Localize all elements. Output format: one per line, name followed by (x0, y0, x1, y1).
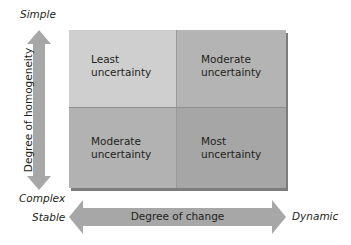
axis-right-label: Dynamic (292, 210, 338, 222)
axis-top-label: Simple (20, 8, 56, 20)
cell-line2: uncertainty (201, 148, 261, 161)
cell-line1: Least (91, 53, 151, 66)
axis-left-label: Stable (32, 211, 65, 223)
cell-line1: Most (201, 135, 261, 148)
cell-moderate-uncertainty-bottom: Moderate uncertainty (69, 107, 176, 188)
cell-line1: Moderate (91, 135, 151, 148)
cell-least-uncertainty: Least uncertainty (69, 30, 176, 107)
horizontal-axis-label: Degree of change (69, 210, 286, 222)
cell-line2: uncertainty (91, 66, 151, 79)
cell-most-uncertainty: Most uncertainty (176, 107, 286, 188)
uncertainty-matrix: Least uncertainty Moderate uncertainty M… (69, 30, 286, 188)
cell-line1: Moderate (201, 53, 261, 66)
cell-line2: uncertainty (91, 148, 151, 161)
cell-line2: uncertainty (201, 66, 261, 79)
vertical-axis-label: Degree of homogeneity (21, 30, 35, 190)
axis-bottom-label: Complex (19, 192, 65, 204)
cell-moderate-uncertainty-top: Moderate uncertainty (176, 30, 286, 107)
